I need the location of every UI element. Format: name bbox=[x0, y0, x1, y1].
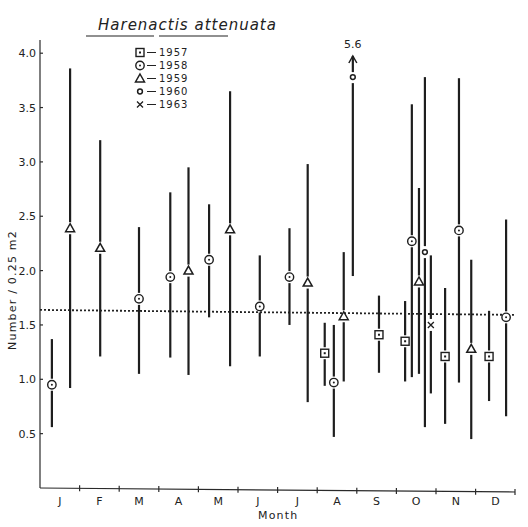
month-label: J bbox=[255, 495, 259, 508]
month-label: A bbox=[333, 495, 341, 508]
circle-marker-dot bbox=[458, 229, 460, 231]
month-label: O bbox=[412, 495, 421, 508]
axes bbox=[40, 40, 515, 495]
square-marker-dot bbox=[139, 52, 141, 54]
triangle-marker-1959 bbox=[66, 224, 75, 232]
circle-marker-dot bbox=[139, 65, 141, 67]
y-tick-label: 1.0 bbox=[19, 373, 37, 386]
month-label: J bbox=[57, 495, 61, 508]
month-label: D bbox=[491, 495, 499, 508]
month-label: M bbox=[134, 495, 144, 508]
legend-label: 1957 bbox=[159, 47, 188, 58]
circle-marker-dot bbox=[51, 384, 53, 386]
triangle-marker-1959 bbox=[184, 266, 193, 274]
circle-marker-dot bbox=[288, 276, 290, 278]
x-marker-1963 bbox=[428, 322, 434, 328]
y-tick-label: 2.0 bbox=[19, 265, 37, 278]
month-label: N bbox=[452, 495, 460, 508]
y-tick-label: 3.5 bbox=[19, 102, 37, 115]
circle-marker-dot bbox=[208, 259, 210, 261]
mean-dotted-line bbox=[40, 310, 515, 315]
dot-marker-1960 bbox=[423, 250, 428, 255]
month-label: M bbox=[213, 495, 223, 508]
y-tick-label: 0.5 bbox=[19, 428, 37, 441]
triangle-marker-1959 bbox=[96, 243, 105, 251]
mean-line bbox=[40, 310, 515, 315]
chart-title: Harenactis attenuata bbox=[98, 16, 277, 34]
circle-marker-dot bbox=[333, 382, 335, 384]
y-tick-label: 4.0 bbox=[19, 47, 37, 60]
legend-label: 1960 bbox=[159, 86, 188, 97]
triangle-marker-1959 bbox=[303, 278, 312, 286]
square-marker-dot bbox=[378, 334, 380, 336]
triangle-marker-1959 bbox=[467, 344, 476, 352]
square-marker-dot bbox=[444, 355, 446, 357]
legend-label: 1959 bbox=[159, 73, 188, 84]
month-label: F bbox=[96, 495, 102, 508]
x-marker-1963 bbox=[137, 102, 143, 108]
circle-marker-dot bbox=[411, 240, 413, 242]
square-marker-dot bbox=[324, 352, 326, 354]
y-axis-title: Number / 0.25 m2 bbox=[6, 230, 19, 350]
arrow-annotation: 5.6 bbox=[344, 38, 362, 51]
triangle-marker-1959 bbox=[414, 277, 423, 285]
error-bars bbox=[52, 56, 506, 439]
circle-marker-dot bbox=[505, 316, 507, 318]
month-label: A bbox=[175, 495, 183, 508]
chart: 0.51.01.52.02.53.03.54.0JFMAMJJASOND5.6 … bbox=[0, 0, 528, 527]
dot-marker-1960 bbox=[350, 75, 355, 80]
y-tick-label: 3.0 bbox=[19, 156, 37, 169]
legend-label: 1958 bbox=[159, 60, 188, 71]
dot-marker-1960 bbox=[138, 89, 143, 94]
square-marker-dot bbox=[488, 355, 490, 357]
y-tick-label: 1.5 bbox=[19, 319, 37, 332]
circle-marker-dot bbox=[138, 298, 140, 300]
x-axis-title: Month bbox=[258, 509, 298, 522]
data-markers bbox=[48, 75, 511, 389]
month-label: J bbox=[295, 495, 299, 508]
triangle-marker-1959 bbox=[226, 225, 235, 233]
square-marker-dot bbox=[404, 340, 406, 342]
circle-marker-dot bbox=[259, 305, 261, 307]
legend: 19571958195919601963 bbox=[136, 47, 189, 110]
legend-label: 1963 bbox=[159, 99, 188, 110]
triangle-marker-1959 bbox=[136, 74, 145, 82]
y-tick-label: 2.5 bbox=[19, 210, 37, 223]
circle-marker-dot bbox=[169, 276, 171, 278]
month-label: S bbox=[373, 495, 380, 508]
